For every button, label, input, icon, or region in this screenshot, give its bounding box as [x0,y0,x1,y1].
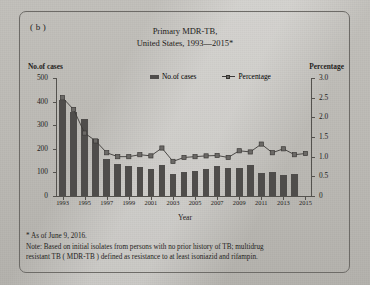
y-axis-right-tick [312,176,315,177]
x-axis-tick-label: 1995 [74,199,96,206]
percentage-marker [149,154,153,158]
y-axis-right-tick [312,78,315,79]
y-axis-left-tick [53,196,56,197]
x-axis-tick-label: 2011 [250,199,272,206]
panel-label: ( b ) [30,22,46,32]
percentage-polyline [63,98,306,162]
percentage-marker [83,131,87,135]
figure-notes: * As of June 9, 2016. Note: Based on ini… [26,231,351,263]
y-axis-left-tick-label: 0 [24,191,48,200]
x-axis-tick-label: 1993 [52,199,74,206]
percentage-marker [116,155,120,159]
percentage-marker [259,142,263,146]
percentage-marker [60,96,64,100]
y-axis-left-tick [53,172,56,173]
y-axis-right-tick-label: 1.5 [319,132,343,141]
x-axis-title: Year [0,213,370,222]
percentage-marker [292,153,296,157]
y-axis-left-tick [53,78,56,79]
y-axis-right-tick-label: 0.5 [319,171,343,180]
percentage-marker [94,139,98,143]
percentage-marker [270,151,274,155]
percentage-marker [193,155,197,159]
percentage-line-series [57,78,311,196]
note-line-1: Note: Based on initial isolates from per… [26,242,351,253]
x-axis-tick-label: 2005 [184,199,206,206]
x-axis-tick-label: 1999 [118,199,140,206]
y-axis-right-title: Percentage [309,62,344,71]
y-axis-right-tick [312,196,315,197]
chart-title-line-1: Primary MDR-TB, [60,26,310,38]
percentage-marker [71,107,75,111]
y-axis-left-tick [53,149,56,150]
percentage-marker [171,159,175,163]
y-axis-right-tick [312,137,315,138]
percentage-marker [226,155,230,159]
percentage-marker [105,151,109,155]
x-axis-tick-label: 1997 [96,199,118,206]
y-axis-left-tick-label: 400 [24,97,48,106]
y-axis-right-tick-label: 2.0 [319,112,343,121]
percentage-marker [182,155,186,159]
y-axis-left-tick [53,102,56,103]
percentage-marker [281,147,285,151]
y-axis-right-tick-label: 1.0 [319,152,343,161]
note-asterisk: * As of June 9, 2016. [26,231,351,242]
y-axis-right-tick-label: 0 [319,191,343,200]
percentage-marker [204,154,208,158]
percentage-marker [127,155,131,159]
percentage-marker [248,150,252,154]
x-axis-tick-label: 2015 [294,199,316,206]
y-axis-left-tick-label: 300 [24,120,48,129]
x-axis-tick-label: 2007 [206,199,228,206]
x-axis-line [56,196,312,197]
y-axis-left-tick [53,125,56,126]
y-axis-right-tick-label: 2.5 [319,93,343,102]
y-axis-left-title: No.of cases [28,62,63,71]
y-axis-right-tick [312,117,315,118]
plot-area: 0100200300400500 00.51.01.52.02.53.0 199… [57,78,311,196]
y-axis-left-tick-label: 200 [24,144,48,153]
x-axis-tick-label: 2009 [228,199,250,206]
percentage-marker [215,153,219,157]
note-line-2: resistant TB ( MDR-TB ) defined as resis… [26,252,351,263]
y-axis-right-tick [312,98,315,99]
percentage-marker [138,153,142,157]
y-axis-right-tick [312,157,315,158]
percentage-marker [237,149,241,153]
x-axis-tick-label: 2003 [162,199,184,206]
y-axis-right-tick-label: 3.0 [319,73,343,82]
y-axis-left-tick-label: 100 [24,167,48,176]
y-axis-left-tick-label: 500 [24,73,48,82]
x-axis-tick-label: 2001 [140,199,162,206]
chart-title: Primary MDR-TB, United States, 1993—2015… [60,26,310,49]
chart-title-line-2: United States, 1993—2015* [60,38,310,50]
percentage-marker [160,146,164,150]
percentage-marker [303,151,307,155]
x-axis-tick-label: 2013 [272,199,294,206]
